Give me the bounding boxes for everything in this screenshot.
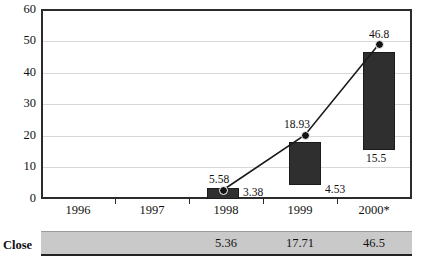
chart-root: 60 50 40 30 20 10 0 1996 1997 1998 1999 … [0, 0, 424, 261]
y-axis-tick-0: 0 [2, 192, 36, 204]
point-label-1999: 18.93 [284, 118, 310, 130]
x-axis-label-1998: 1998 [189, 203, 263, 218]
point-label-2000: 46.8 [369, 28, 389, 40]
bar-1999 [289, 142, 321, 185]
point-label-1998: 5.58 [209, 173, 229, 185]
x-axis-label-1997: 1997 [115, 203, 189, 218]
gridline-30 [43, 104, 410, 105]
y-axis-tick-20: 20 [2, 129, 36, 141]
bar-2000 [363, 52, 395, 150]
y-axis-tick-50: 50 [2, 34, 36, 46]
close-cell-1999: 17.71 [263, 236, 337, 251]
x-axis-label-1999: 1999 [263, 203, 337, 218]
close-cell-1998: 5.36 [189, 236, 263, 251]
gridline-50 [43, 41, 410, 42]
bar-label-1999: 4.53 [325, 183, 345, 195]
gridline-40 [43, 73, 410, 74]
close-row-label: Close [3, 238, 32, 253]
bar-label-2000: 15.5 [366, 152, 386, 164]
close-marker-1999 [301, 131, 310, 140]
y-axis-tick-30: 30 [2, 97, 36, 109]
plot-area [41, 9, 412, 199]
x-axis-label-1996: 1996 [41, 203, 115, 218]
close-marker-1998 [219, 186, 228, 195]
gridline-10 [43, 167, 410, 168]
close-marker-2000 [375, 40, 384, 49]
y-axis-tick-40: 40 [2, 66, 36, 78]
x-axis-label-2000: 2000* [337, 203, 411, 218]
y-axis-tick-10: 10 [2, 160, 36, 172]
gridline-20 [43, 136, 410, 137]
y-axis-tick-60: 60 [2, 3, 36, 15]
close-cell-2000: 46.5 [337, 236, 411, 251]
bar-label-1998: 3.38 [243, 186, 263, 198]
